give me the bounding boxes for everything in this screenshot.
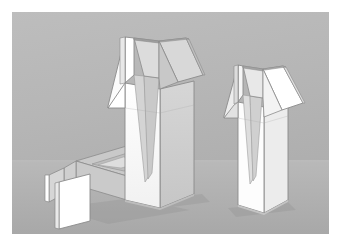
center-carton-flap-left-upper[interactable] xyxy=(125,37,134,83)
screenshot-frame xyxy=(0,0,341,246)
right-carton-flap-back-thickness xyxy=(234,65,238,104)
right-carton-flap-back-upper[interactable] xyxy=(238,65,243,102)
lying-carton-white-flap-thickness xyxy=(55,182,59,229)
3d-scene[interactable] xyxy=(12,12,329,234)
center-carton-flap-left-thickness xyxy=(120,37,125,84)
lying-carton-white-flap[interactable] xyxy=(59,174,90,229)
lying-carton-left-flap-edge[interactable] xyxy=(45,175,49,202)
render-viewport[interactable] xyxy=(12,12,329,234)
center-carton-side-panel[interactable] xyxy=(160,81,194,208)
